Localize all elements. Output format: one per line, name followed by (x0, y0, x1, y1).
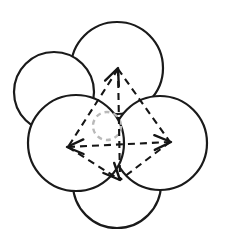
tetrahedral-site-diagram (0, 0, 233, 247)
figure-root: Tetrahedral interstitial site in a close… (0, 0, 233, 247)
